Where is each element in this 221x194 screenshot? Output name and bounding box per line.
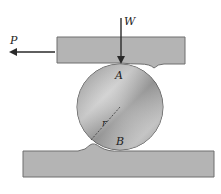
w-label: W	[124, 15, 137, 28]
point-b-label: B	[115, 135, 124, 148]
roller-between-plates-diagram: W P A B r	[0, 0, 221, 194]
p-label: P	[9, 34, 18, 47]
point-a-label: A	[114, 69, 123, 82]
